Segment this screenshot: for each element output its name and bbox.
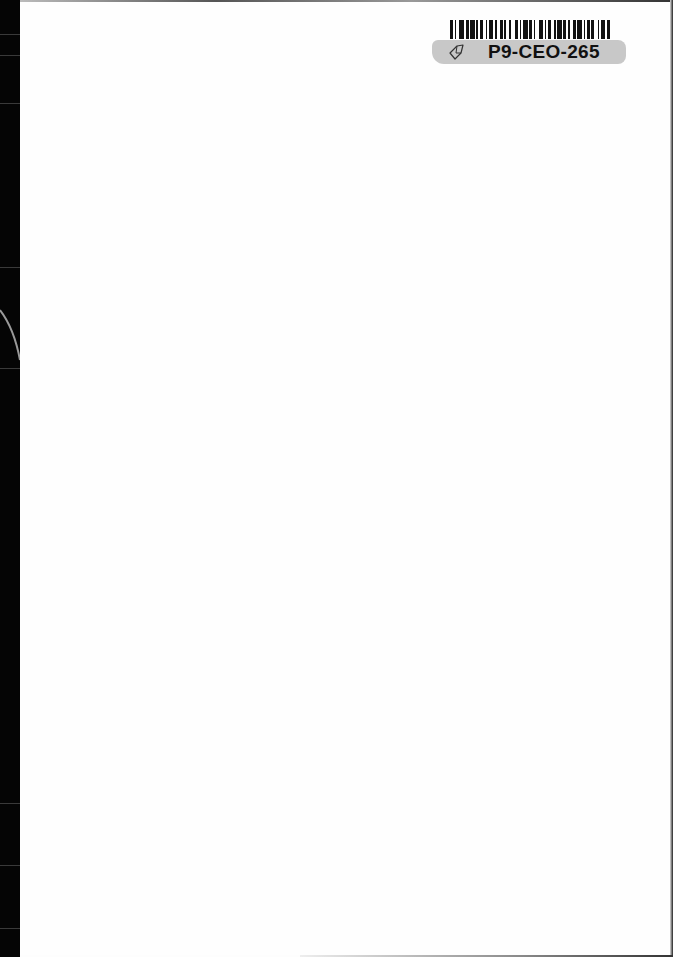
binding-scratch [0, 34, 20, 35]
tag-icon [448, 43, 466, 61]
binding-scratch [0, 865, 20, 866]
library-call-number-label: P9-CEO-265 [432, 40, 626, 64]
binding-curve-icon [0, 300, 22, 380]
binding-scratch [0, 267, 20, 268]
binding-scratch [0, 103, 20, 104]
binding-scratch [0, 928, 20, 929]
library-barcode [450, 20, 612, 39]
binding-scratch [0, 55, 20, 56]
binding-scratch [0, 803, 20, 804]
blank-page [20, 2, 670, 955]
call-number-text: P9-CEO-265 [488, 41, 600, 63]
barcode-gap [610, 20, 612, 39]
book-binding-edge [0, 0, 20, 957]
